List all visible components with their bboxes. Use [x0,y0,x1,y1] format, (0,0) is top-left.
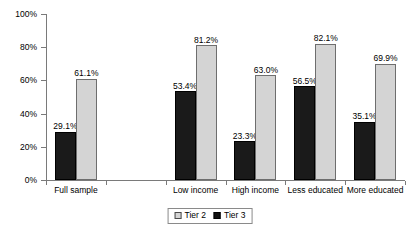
bar-group-bars: 56.5%82.1% [285,14,345,180]
bar-tier3[interactable]: 53.4% [175,91,196,180]
bar-chart: 0%20%40%60%80%100% 29.1%61.1%53.4%81.2%2… [0,0,420,242]
bar-tier2[interactable]: 61.1% [76,79,97,180]
bar-group: 29.1%61.1% [46,14,106,180]
legend-item-tier2[interactable]: Tier 2 [175,211,206,220]
bar-tier2[interactable]: 81.2% [196,45,217,180]
bar-tier3[interactable]: 23.3% [234,141,255,180]
bar-group: 56.5%82.1% [285,14,345,180]
x-axis-tick [166,181,167,185]
bar-group [106,14,166,180]
bar-value-label: 53.4% [173,82,197,91]
chart-legend: Tier 2Tier 3 [168,208,253,224]
x-axis-tick [285,181,286,185]
x-axis-category-label: High income [232,186,279,195]
x-axis-tick [106,181,107,185]
bar-tier3[interactable]: 35.1% [354,122,375,180]
bar-value-label: 56.5% [293,77,317,86]
x-axis-category-label: Full sample [54,186,97,195]
bar-value-label: 61.1% [74,69,98,78]
bar-value-label: 63.0% [254,66,278,75]
legend-swatch-icon [214,212,221,219]
bar-group-bars: 29.1%61.1% [46,14,106,180]
y-axis-tick-label: 80% [0,43,37,52]
bar-value-label: 29.1% [53,122,77,131]
x-axis-tick [405,181,406,185]
bar-tier3[interactable]: 29.1% [55,132,76,180]
legend-label: Tier 3 [224,211,245,220]
x-axis-category-label: More educated [347,186,404,195]
legend-label: Tier 2 [185,211,206,220]
bar-value-label: 82.1% [314,34,338,43]
bar-tier2[interactable]: 82.1% [315,44,336,180]
bar-value-label: 69.9% [374,54,398,63]
bar-value-label: 35.1% [353,112,377,121]
x-axis-tick [226,181,227,185]
x-axis-category-label: Low income [173,186,218,195]
bar-group: 23.3%63.0% [226,14,286,180]
bar-group-bars: 23.3%63.0% [226,14,286,180]
bar-value-label: 23.3% [233,132,257,141]
legend-swatch-icon [175,212,182,219]
x-axis-category-label: Less educated [288,186,343,195]
y-axis-tick-label: 40% [0,109,37,118]
bar-tier3[interactable]: 56.5% [294,86,315,180]
bar-value-label: 81.2% [194,36,218,45]
y-axis-tick-label: 20% [0,143,37,152]
bar-group-bars [106,14,166,180]
bar-group: 53.4%81.2% [166,14,226,180]
x-axis-tick [46,181,47,185]
bar-group-bars: 53.4%81.2% [166,14,226,180]
plot-area: 29.1%61.1%53.4%81.2%23.3%63.0%56.5%82.1%… [46,14,405,180]
bar-tier2[interactable]: 63.0% [255,75,276,180]
bar-tier2[interactable]: 69.9% [375,64,396,180]
bar-group: 35.1%69.9% [345,14,405,180]
bar-group-bars: 35.1%69.9% [345,14,405,180]
y-axis-tick-label: 100% [0,10,37,19]
y-axis-tick-label: 60% [0,76,37,85]
legend-item-tier3[interactable]: Tier 3 [214,211,245,220]
y-axis-tick-label: 0% [0,176,37,185]
